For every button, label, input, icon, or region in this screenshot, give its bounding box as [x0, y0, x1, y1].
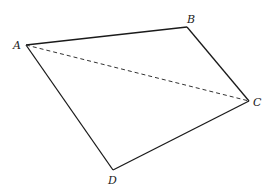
edge-da: [26, 45, 113, 170]
vertex-label-d: D: [107, 174, 117, 187]
edge-cd: [113, 101, 249, 170]
vertex-label-b: B: [186, 13, 195, 26]
vertex-label-a: A: [12, 39, 21, 52]
vertex-label-c: C: [253, 96, 262, 109]
edge-ab: [26, 27, 187, 45]
edge-bc: [187, 27, 249, 101]
quadrilateral-diagram: A B C D: [0, 0, 273, 194]
